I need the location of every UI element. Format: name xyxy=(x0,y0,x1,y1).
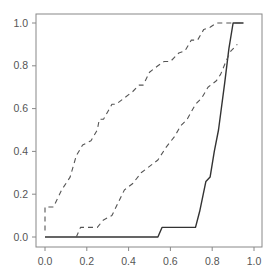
series-estimate xyxy=(45,23,244,237)
series-layer xyxy=(45,23,244,237)
chart: 0.00.20.40.60.81.0 0.00.20.40.60.81.0 xyxy=(0,0,275,279)
x-tick-label: 0.6 xyxy=(163,255,178,267)
y-tick-label: 0.0 xyxy=(13,231,28,243)
x-tick-label: 0.2 xyxy=(79,255,94,267)
x-tick-label: 0.0 xyxy=(38,255,53,267)
y-tick-label: 0.6 xyxy=(13,102,28,114)
x-tick-label: 1.0 xyxy=(247,255,262,267)
y-tick-label: 0.4 xyxy=(13,145,28,157)
x-tick-label: 0.8 xyxy=(205,255,220,267)
plot-frame xyxy=(36,14,262,247)
y-tick-label: 0.2 xyxy=(13,188,28,200)
y-axis: 0.00.20.40.60.81.0 xyxy=(13,17,36,243)
series-upper-bound xyxy=(45,23,242,231)
y-tick-label: 1.0 xyxy=(13,17,28,29)
series-lower-bound xyxy=(76,44,237,237)
x-axis: 0.00.20.40.60.81.0 xyxy=(38,247,262,267)
y-tick-label: 0.8 xyxy=(13,59,28,71)
x-tick-label: 0.4 xyxy=(121,255,136,267)
